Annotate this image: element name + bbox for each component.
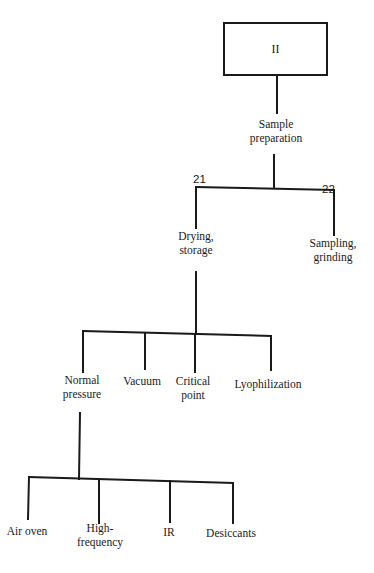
- node-lyophilization: Lyophilization: [234, 377, 301, 391]
- tree-connectors: [0, 0, 374, 573]
- node-sample-preparation: Sample preparation: [250, 117, 302, 145]
- node-number-21: 21: [193, 173, 206, 185]
- node-air-oven: Air oven: [7, 524, 48, 538]
- root-node-label: II: [272, 42, 280, 57]
- node-desiccants: Desiccants: [206, 526, 256, 540]
- node-drying-storage: Drying, storage: [178, 229, 213, 257]
- node-ir: IR: [163, 525, 175, 539]
- node-critical-point: Critical point: [176, 374, 211, 402]
- node-high-frequency: High- frequency: [77, 521, 123, 549]
- node-sampling-grinding: Sampling, grinding: [310, 236, 357, 264]
- node-normal-pressure: Normal pressure: [63, 373, 101, 401]
- node-vacuum: Vacuum: [123, 374, 161, 388]
- node-number-22: 22: [322, 183, 335, 195]
- root-node-box: II: [223, 22, 328, 76]
